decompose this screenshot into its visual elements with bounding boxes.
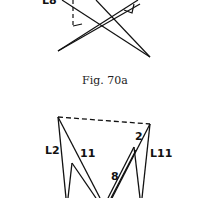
figure-caption: Fig. 70a [82,74,128,87]
top-partial-label: L8 [42,0,57,7]
label-right-outer: L11 [150,147,172,160]
label-right-inner: 8 [111,170,119,183]
diagram-canvas: L8 Fig. 70a L2 11 2 L11 8 [0,0,204,198]
label-right-top: 2 [135,130,143,143]
label-left-inner: 11 [80,147,95,160]
top-figure [58,0,150,57]
label-left-outer: L2 [45,144,60,157]
